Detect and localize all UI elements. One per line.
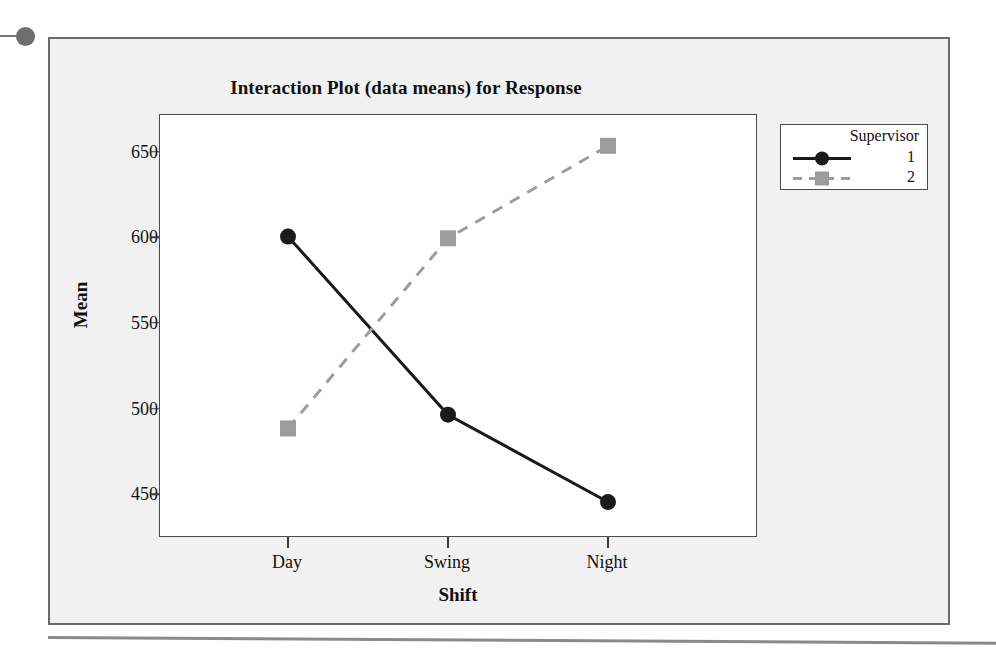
figure-frame: Interaction Plot (data means) for Respon… bbox=[48, 37, 950, 625]
data-point-2 bbox=[440, 230, 456, 246]
x-axis-label: Shift bbox=[159, 584, 757, 606]
y-tick-mark bbox=[150, 322, 159, 324]
data-point-1 bbox=[600, 494, 616, 510]
data-point-2 bbox=[280, 420, 296, 436]
plot-panel bbox=[159, 114, 757, 537]
scan-artifact-bullet-dot bbox=[16, 27, 35, 46]
y-tick-mark bbox=[150, 493, 159, 495]
y-tick-mark bbox=[150, 408, 159, 410]
legend-entry-1: 1 bbox=[781, 148, 927, 169]
x-tick-label: Night bbox=[586, 552, 627, 573]
series-line-1 bbox=[288, 237, 608, 502]
x-tick-mark bbox=[607, 537, 609, 548]
y-axis-ticks: 450500550600650 bbox=[88, 39, 158, 627]
y-tick-mark bbox=[150, 151, 159, 153]
plot-series-canvas bbox=[160, 115, 758, 538]
y-tick-mark bbox=[150, 237, 159, 239]
data-point-2 bbox=[600, 138, 616, 154]
data-point-1 bbox=[280, 229, 296, 245]
legend: Supervisor 1 2 bbox=[780, 124, 928, 190]
legend-label-series-1: 1 bbox=[907, 148, 915, 166]
scanned-figure-page: Interaction Plot (data means) for Respon… bbox=[0, 0, 996, 661]
legend-title: Supervisor bbox=[850, 127, 919, 145]
legend-label-series-2: 2 bbox=[907, 168, 915, 186]
x-tick-label: Day bbox=[272, 552, 302, 573]
x-tick-mark bbox=[287, 537, 289, 548]
page-bottom-rule bbox=[48, 636, 996, 645]
legend-entry-2: 2 bbox=[781, 168, 927, 189]
series-line-2 bbox=[288, 146, 608, 429]
legend-key-series-1 bbox=[791, 148, 853, 169]
legend-key-series-2 bbox=[791, 168, 853, 189]
x-tick-mark bbox=[447, 537, 449, 548]
data-point-1 bbox=[440, 407, 456, 423]
x-tick-label: Swing bbox=[424, 552, 470, 573]
